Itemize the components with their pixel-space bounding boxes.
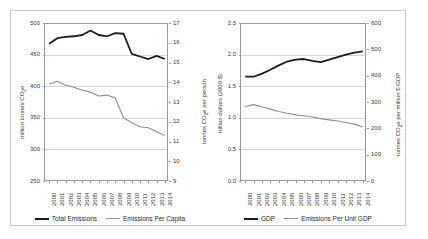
y-axis-tick-mark xyxy=(43,149,45,150)
legend-right: GDP Emissions Per Unit GDP xyxy=(209,215,407,222)
legend-line-swatch-icon xyxy=(244,218,258,220)
y2-axis-title-left: tonnes CO2e per person xyxy=(201,79,209,144)
y2-axis-tick-label: 100 xyxy=(371,151,381,158)
x-axis-tick-label: 2004 xyxy=(281,193,287,206)
x-axis-tick-mark xyxy=(99,181,100,183)
series-line xyxy=(245,105,363,127)
legend-label: GDP xyxy=(261,215,275,222)
y2-axis-tick-label: 17 xyxy=(173,20,180,27)
y2-axis-tick-label: 0 xyxy=(371,178,374,185)
y2-axis-tick-label: 300 xyxy=(371,99,381,106)
x-axis-tick-label: 2007 xyxy=(306,193,312,206)
y2-axis-tick-mark xyxy=(367,128,369,129)
y2-axis-tick-mark xyxy=(367,76,369,77)
x-axis-tick-mark xyxy=(157,181,158,183)
x-axis-tick-mark xyxy=(354,181,355,183)
x-axis-tick-label: 2009 xyxy=(323,193,329,206)
legend-item-emissions-per-unit-gdp[interactable]: Emissions Per Unit GDP xyxy=(284,215,372,222)
legend-item-emissions-per-capita[interactable]: Emissions Per Capita xyxy=(106,215,185,222)
y2-axis-tick-label: 11 xyxy=(173,138,179,145)
x-axis-tick-mark xyxy=(262,181,263,183)
y-axis-tick-label: 500 xyxy=(11,20,40,27)
y2-axis-tick-mark xyxy=(367,23,369,24)
y-axis-title-right: trillion dollars (2009 $) xyxy=(217,74,223,133)
x-axis-tick-label: 2002 xyxy=(264,193,270,206)
x-axis-tick-mark xyxy=(49,181,50,183)
x-axis-tick-label: 2009 xyxy=(126,193,132,206)
y2-axis-tick-mark xyxy=(169,102,171,103)
x-axis-tick-label: 2014 xyxy=(167,193,173,206)
y-axis-tick-mark xyxy=(43,86,45,87)
y2-axis-title-right: tonnes CO2e per million $ GDP xyxy=(395,73,403,156)
x-axis-tick-label: 2004 xyxy=(84,193,90,206)
x-axis-tick-label: 2005 xyxy=(289,193,295,206)
x-axis-tick-label: 2006 xyxy=(298,193,304,206)
y2-axis-tick-mark xyxy=(367,102,369,103)
plot-area-right xyxy=(240,23,366,181)
chart-panel-emissions: 500450400350300250 17161514131211109 200… xyxy=(11,11,209,227)
y2-axis-tick-mark xyxy=(169,122,171,123)
y2-axis-tick-label: 400 xyxy=(371,72,381,79)
y-axis-tick-label: 250 xyxy=(11,178,40,185)
chart-figure-frame: 500450400350300250 17161514131211109 200… xyxy=(10,10,406,226)
chart-panel-gdp: 2.52.01.51.00.50.0 6005004003002001000 2… xyxy=(209,11,407,227)
x-axis-tick-mark xyxy=(321,181,322,183)
y-axis-tick-label: 450 xyxy=(11,51,40,58)
x-axis-tick-label: 2000 xyxy=(247,193,253,206)
x-axis-tick-mark xyxy=(148,181,149,183)
legend-item-total-emissions[interactable]: Total Emissions xyxy=(35,215,97,222)
series-line xyxy=(245,51,363,76)
x-axis-tick-mark xyxy=(312,181,313,183)
legend-line-swatch-icon xyxy=(35,218,49,220)
y-axis-tick-mark xyxy=(239,86,241,87)
y2-axis-tick-label: 12 xyxy=(173,118,180,125)
y2-axis-tick-label: 9 xyxy=(173,178,176,185)
legend-line-swatch-icon xyxy=(106,218,120,219)
x-axis-tick-mark xyxy=(363,181,364,183)
y2-axis-tick-mark xyxy=(367,181,369,182)
y-axis-tick-label: 2.0 xyxy=(209,51,236,58)
x-axis-tick-mark xyxy=(346,181,347,183)
plot-area-left xyxy=(44,23,168,181)
legend-label: Emissions Per Capita xyxy=(123,215,185,222)
x-axis-tick-mark xyxy=(57,181,58,183)
y2-axis-tick-mark xyxy=(367,155,369,156)
series-line xyxy=(49,81,165,135)
y2-axis-tick-mark xyxy=(169,161,171,162)
y-axis-tick-mark xyxy=(43,55,45,56)
y2-axis-tick-mark xyxy=(367,49,369,50)
x-axis-tick-mark xyxy=(82,181,83,183)
series-lines-right xyxy=(241,23,367,181)
x-axis-tick-label: 2001 xyxy=(59,193,65,206)
x-axis-tick-mark xyxy=(165,181,166,183)
y2-axis-tick-mark xyxy=(169,142,171,143)
legend-line-swatch-icon xyxy=(284,218,298,219)
y2-axis-tick-label: 500 xyxy=(371,46,381,53)
y2-axis-tick-mark xyxy=(169,181,171,182)
x-axis-tick-label: 2003 xyxy=(272,193,278,206)
y2-axis-tick-label: 13 xyxy=(173,99,180,106)
x-axis-tick-label: 2001 xyxy=(256,193,262,206)
x-axis-tick-label: 2008 xyxy=(117,193,123,206)
x-axis-tick-label: 2007 xyxy=(109,193,115,206)
x-axis-tick-mark xyxy=(74,181,75,183)
y-axis-tick-label: 0.5 xyxy=(209,146,236,153)
y2-axis-tick-label: 16 xyxy=(173,39,180,46)
x-axis-tick-mark xyxy=(107,181,108,183)
y-axis-tick-mark xyxy=(239,23,241,24)
x-axis-tick-mark xyxy=(140,181,141,183)
x-axis-tick-label: 2008 xyxy=(314,193,320,206)
x-axis-tick-mark xyxy=(287,181,288,183)
y2-axis-tick-mark xyxy=(169,82,171,83)
x-axis-tick-mark xyxy=(329,181,330,183)
y-axis-tick-label: 300 xyxy=(11,146,40,153)
x-axis-tick-mark xyxy=(270,181,271,183)
x-axis-tick-label: 2003 xyxy=(76,193,82,206)
y-axis-tick-mark xyxy=(239,118,241,119)
y-axis-tick-label: 2.5 xyxy=(209,20,236,27)
x-axis-tick-label: 2012 xyxy=(150,193,156,206)
x-axis-tick-label: 2013 xyxy=(159,193,165,206)
legend-item-gdp[interactable]: GDP xyxy=(244,215,275,222)
x-axis-tick-mark xyxy=(115,181,116,183)
y-axis-tick-mark xyxy=(239,181,241,182)
